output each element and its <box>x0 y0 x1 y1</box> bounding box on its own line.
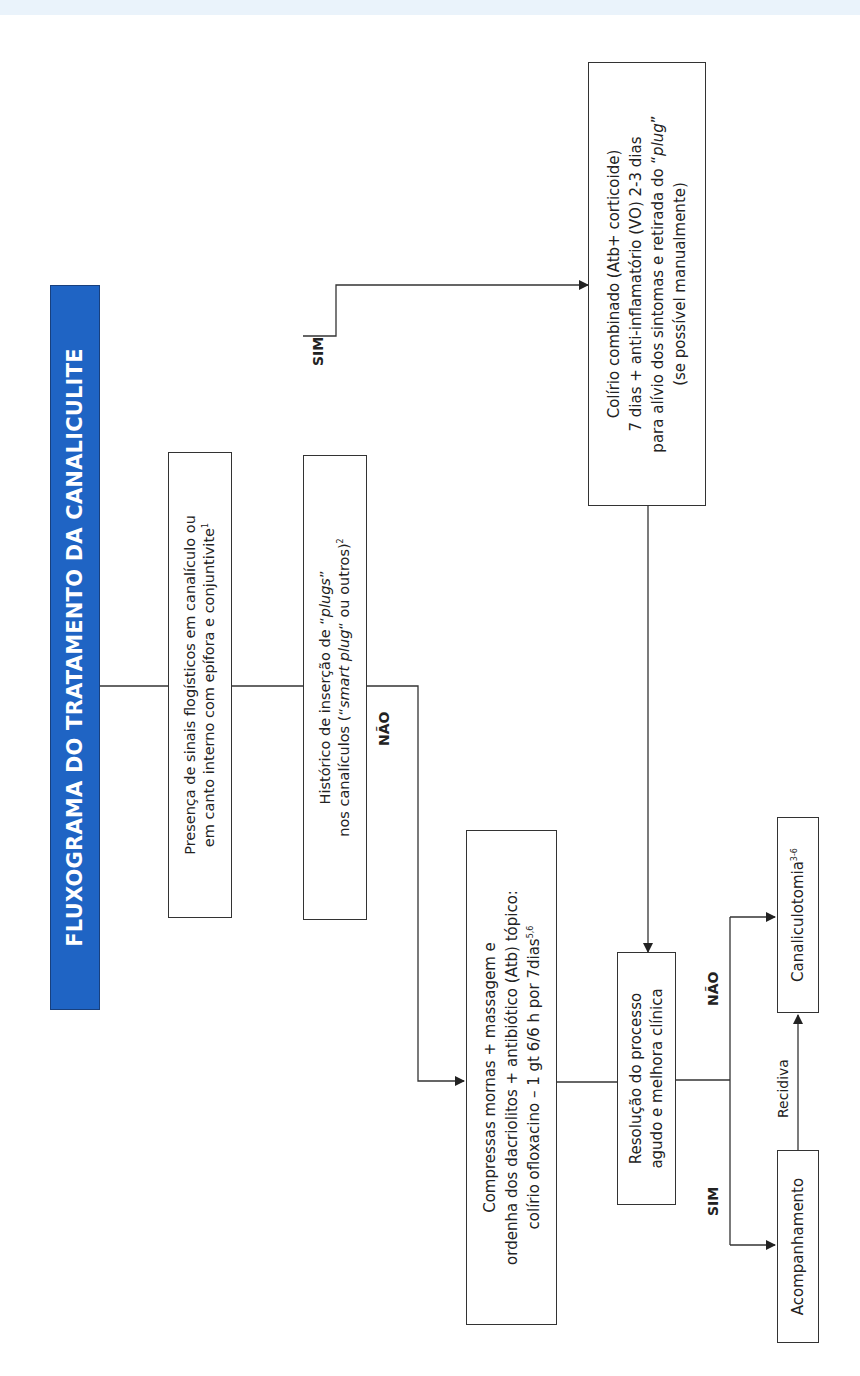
text-italic: plugs <box>317 578 333 617</box>
flowchart-title-text: FLUXOGRAMA DO TRATAMENTO DA CANALICULITE <box>63 348 87 946</box>
node-canaliculotomia: Canaliculotomia3-6 <box>777 817 819 1013</box>
node-historico-line-2: nos canalículos (“smart plug“ ou outros)… <box>335 538 354 836</box>
flowchart-connectors <box>0 0 860 1376</box>
text: Histórico de inserção de “ <box>317 617 333 804</box>
edge-label-historico-nao: NÃO <box>376 712 392 746</box>
node-presenca-line-2-wrap: em canto interno com epífora e conjuntiv… <box>200 523 219 847</box>
node-canaliculotomia-wrap: Canaliculotomia3-6 <box>789 848 808 982</box>
text: para alívio dos sintomas e retirada do “ <box>649 156 667 453</box>
flowchart-title: FLUXOGRAMA DO TRATAMENTO DA CANALICULITE <box>50 285 100 1010</box>
edge-label-historico-sim: SIM <box>310 337 326 366</box>
node-colirio-line-2: 7 dias + anti-inflamatório (VO) 2-3 dias <box>625 137 647 432</box>
node-compressas-line-3-wrap: colírio ofloxacino – 1 gt 6/6 h por 7dia… <box>523 926 545 1230</box>
node-colirio-line-3: para alívio dos sintomas e retirada do “… <box>647 115 669 452</box>
node-compressas-line-1: Compressas mornas + massagem e <box>479 942 501 1213</box>
ref-2: 2 <box>336 538 345 543</box>
ref-3-6: 3-6 <box>790 848 799 861</box>
node-presenca-line-2: em canto interno com epífora e conjuntiv… <box>201 528 217 847</box>
node-historico: Histórico de inserção de “plugs” nos can… <box>303 455 367 920</box>
text: “ ou outros) <box>336 543 352 629</box>
node-acompanhamento: Acompanhamento <box>777 1150 819 1343</box>
text: ” <box>317 571 333 579</box>
node-resolucao-line-1: Resolução do processo <box>626 993 647 1164</box>
text-italic: smart plug <box>336 630 352 708</box>
node-compressas-line-3: colírio ofloxacino – 1 gt 6/6 h por 7dia… <box>525 938 543 1229</box>
edge-label-resolucao-sim: SIM <box>705 1187 721 1216</box>
node-colirio-line-1: Colírio combinado (Atb+ corticoide) <box>603 150 625 419</box>
ref-5-6: 5,6 <box>526 926 535 939</box>
node-compressas-line-2: ordenha dos dacriolitos + antibiótico (A… <box>501 890 523 1265</box>
node-presenca: Presença de sinais flogísticos em canalí… <box>168 452 232 918</box>
ref-1: 1 <box>201 523 210 528</box>
node-colirio-combinado: Colírio combinado (Atb+ corticoide) 7 di… <box>588 62 706 506</box>
node-acompanhamento-label: Acompanhamento <box>789 1178 808 1315</box>
connector-historico-sim <box>303 285 588 336</box>
edge-label-resolucao-nao: NÃO <box>705 972 721 1006</box>
node-colirio-line-4: (se possível manualmente) <box>669 182 691 386</box>
node-resolucao: Resolução do processo agudo e melhora cl… <box>617 952 676 1205</box>
node-historico-line-1: Histórico de inserção de “plugs” <box>316 571 335 805</box>
node-canaliculotomia-label: Canaliculotomia <box>789 861 807 982</box>
text: ” <box>649 115 667 123</box>
node-presenca-line-1: Presença de sinais flogísticos em canalí… <box>181 515 200 855</box>
flowchart-canvas: FLUXOGRAMA DO TRATAMENTO DA CANALICULITE… <box>0 0 860 1376</box>
text-italic: plug <box>649 123 667 156</box>
edge-label-recidiva: Recidiva <box>775 1059 791 1118</box>
node-compressas: Compressas mornas + massagem e ordenha d… <box>466 830 557 1325</box>
text: nos canalículos (“ <box>336 708 352 837</box>
node-resolucao-line-2: agudo e melhora clínica <box>647 988 668 1168</box>
